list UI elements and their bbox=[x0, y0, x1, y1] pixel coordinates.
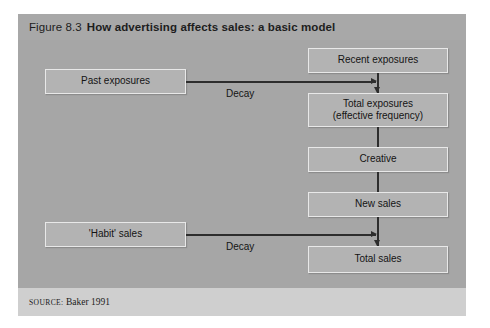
connector-habit-sales-to-total-sales bbox=[186, 234, 376, 236]
edge-label-decay-bottom: Decay bbox=[226, 241, 254, 252]
connector-creative-to-new-sales bbox=[377, 172, 379, 192]
node-new-sales: New sales bbox=[308, 192, 448, 217]
arrowhead-right-icon bbox=[371, 231, 377, 237]
figure-title-band: Figure 8.3How advertising affects sales:… bbox=[18, 14, 466, 40]
arrowhead-right-icon bbox=[371, 78, 377, 84]
diagram-canvas: Recent exposures Total exposures (effect… bbox=[18, 40, 466, 288]
node-creative: Creative bbox=[308, 147, 448, 172]
node-recent-exposures: Recent exposures bbox=[308, 48, 448, 73]
node-past-exposures: Past exposures bbox=[45, 69, 186, 94]
source-label: SOURCE: bbox=[29, 298, 64, 307]
node-label: 'Habit' sales bbox=[89, 228, 142, 241]
arrowhead-down-icon bbox=[374, 87, 380, 93]
connector-past-exposures-to-total-exposures bbox=[186, 81, 376, 83]
node-label: Past exposures bbox=[81, 75, 150, 88]
source-citation: Baker 1991 bbox=[66, 297, 110, 307]
page-title: Figure 8.3How advertising affects sales:… bbox=[29, 21, 335, 33]
node-label-line1: Total exposures bbox=[333, 98, 423, 111]
figure-number: Figure 8.3 bbox=[29, 21, 82, 33]
node-label: New sales bbox=[355, 198, 401, 211]
connector-total-exposures-to-creative bbox=[377, 127, 379, 147]
node-label: Creative bbox=[359, 153, 396, 166]
figure-source-strip: SOURCE: Baker 1991 bbox=[18, 288, 466, 316]
edge-label-decay-top: Decay bbox=[226, 88, 254, 99]
node-habit-sales: 'Habit' sales bbox=[45, 222, 186, 247]
arrowhead-down-icon bbox=[374, 240, 380, 246]
node-total-exposures: Total exposures (effective frequency) bbox=[308, 93, 448, 127]
node-label-line2: (effective frequency) bbox=[333, 110, 423, 123]
node-label: Total sales bbox=[354, 253, 401, 266]
node-total-sales: Total sales bbox=[308, 246, 448, 273]
figure-title-text: How advertising affects sales: a basic m… bbox=[87, 21, 336, 33]
node-label: Recent exposures bbox=[338, 54, 419, 67]
figure-source: SOURCE: Baker 1991 bbox=[29, 297, 110, 307]
figure-panel: Figure 8.3How advertising affects sales:… bbox=[18, 14, 466, 316]
